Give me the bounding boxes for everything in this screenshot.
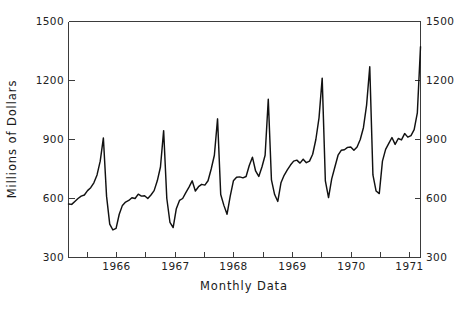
x-label-1966: 1966 (102, 260, 130, 272)
x-axis-title: Monthly Data (200, 279, 288, 293)
y-label-right-3: 1200 (426, 74, 454, 86)
x-label-1969: 1969 (278, 260, 306, 272)
x-axis-labels: 1966 1967 1968 1969 1970 1971 (102, 260, 423, 272)
y-label-right-2: 900 (426, 133, 447, 145)
data-series-monthly-sales (69, 47, 421, 230)
y-label-right-1: 600 (426, 192, 447, 204)
y-label-left-0: 300 (43, 251, 64, 263)
y-axis-title: Millions of Dollars (5, 80, 19, 199)
y-axis-ticks-left (69, 22, 75, 258)
y-label-left-2: 900 (43, 133, 64, 145)
x-label-1968: 1968 (219, 260, 247, 272)
chart-canvas: 1500 1200 900 600 300 1500 1200 900 600 … (0, 0, 465, 309)
x-label-1971: 1971 (395, 260, 423, 272)
chart-figure: 1500 1200 900 600 300 1500 1200 900 600 … (0, 0, 465, 309)
y-axis-labels-left: 1500 1200 900 600 300 (36, 15, 64, 263)
y-label-left-4: 1500 (36, 15, 64, 27)
y-label-left-3: 1200 (36, 74, 64, 86)
axes-frame (69, 22, 421, 258)
x-axis-ticks (69, 252, 421, 258)
x-label-1970: 1970 (337, 260, 365, 272)
y-axis-labels-right: 1500 1200 900 600 300 (426, 15, 454, 263)
y-label-right-4: 1500 (426, 15, 454, 27)
y-label-right-0: 300 (426, 251, 447, 263)
y-label-left-1: 600 (43, 192, 64, 204)
x-label-1967: 1967 (161, 260, 189, 272)
